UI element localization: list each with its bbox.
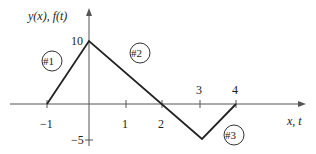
y-axis-arrow-icon — [86, 8, 92, 16]
x-tick-label-neg1: −1 — [40, 117, 53, 131]
segment-3-label: #3 — [225, 129, 237, 141]
x-tick-label-3: 3 — [196, 83, 202, 97]
x-axis-arrow-icon — [298, 101, 306, 107]
y-tick-label-neg5: −5 — [71, 133, 84, 147]
x-tick-label-4: 4 — [232, 83, 238, 97]
segment-1-label: #1 — [43, 55, 54, 67]
x-tick-label-2: 2 — [158, 117, 164, 131]
y-tick-label-10: 10 — [71, 34, 83, 48]
y-axis-label: y(x), f(t) — [27, 9, 67, 23]
diagram-canvas: y(x), f(t) 10 −5 −1 1 2 3 4 x, t #1 #2 #… — [0, 0, 316, 154]
x-tick-label-1: 1 — [122, 117, 128, 131]
x-axis-label: x, t — [286, 114, 302, 128]
piecewise-linear-diagram: y(x), f(t) 10 −5 −1 1 2 3 4 x, t #1 #2 #… — [0, 0, 316, 154]
segment-2-label: #2 — [131, 47, 142, 59]
